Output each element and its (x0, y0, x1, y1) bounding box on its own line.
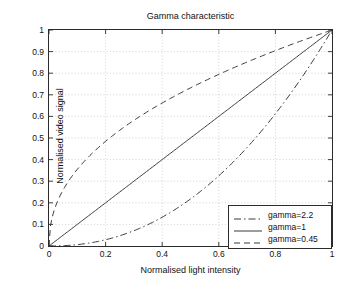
y-tick-label: 0.8 (22, 68, 44, 78)
legend-label: gamma=2.2 (268, 210, 313, 220)
gamma-characteristic-figure: Gamma characteristic 00.20.40.60.81 00.1… (0, 0, 351, 293)
legend-line-sample (233, 234, 263, 244)
y-tick-label: 1 (22, 25, 44, 35)
x-tick-label: 0.8 (269, 249, 281, 259)
legend-line-sample (233, 210, 263, 220)
y-tick-label: 0.1 (22, 219, 44, 229)
legend-item: gamma=0.45 (233, 233, 327, 245)
legend-line-sample (233, 222, 263, 232)
y-tick-label: 0.5 (22, 133, 44, 143)
y-tick-label: 0.2 (22, 198, 44, 208)
x-tick-label: 0.2 (100, 249, 112, 259)
y-axis-label: Normalised video signal (55, 27, 65, 245)
y-tick-label: 0.9 (22, 47, 44, 57)
legend-item: gamma=1 (233, 221, 327, 233)
x-tick-label: 0.4 (156, 249, 168, 259)
legend-item: gamma=2.2 (233, 209, 327, 221)
x-tick-label: 0 (47, 249, 52, 259)
y-tick-label: 0.6 (22, 111, 44, 121)
legend-label: gamma=1 (268, 222, 306, 232)
x-axis-label: Normalised light intensity (48, 265, 333, 275)
y-tick-label: 0.4 (22, 155, 44, 165)
x-tick-label: 1 (330, 249, 335, 259)
legend: gamma=2.2gamma=1gamma=0.45 (228, 205, 332, 249)
y-tick-label: 0.7 (22, 90, 44, 100)
y-tick-label: 0.3 (22, 176, 44, 186)
chart-title: Gamma characteristic (48, 11, 333, 21)
x-tick-label: 0.6 (213, 249, 225, 259)
legend-label: gamma=0.45 (268, 234, 318, 244)
y-tick-label: 0 (22, 241, 44, 251)
